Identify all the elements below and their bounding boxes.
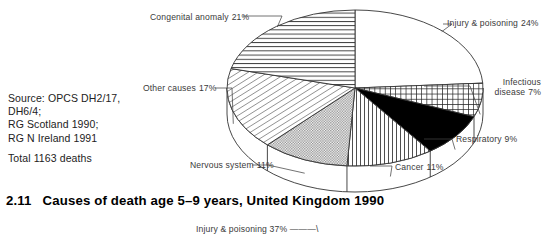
slice-label-injury-poisoning: Injury & poisoning24% <box>447 18 539 28</box>
figure-caption-text: Causes of death age 5–9 years, United Ki… <box>43 193 385 208</box>
source-note: Source: OPCS DH2/17, DH6/4; RG Scotland … <box>8 92 173 145</box>
slice-label-injury-poisoning-name: Injury & poisoning <box>447 18 518 28</box>
next-figure-teaser-label: Injury & poisoning 37% ———\ <box>196 224 319 234</box>
next-figure-teaser-value: 37% <box>270 224 288 234</box>
next-figure-teaser-leader: ———\ <box>290 224 319 234</box>
figure-number: 2.11 <box>6 193 32 208</box>
slice-label-nervous-system-name: Nervous system <box>190 160 254 170</box>
slice-label-respiratory-value: 9% <box>505 134 518 144</box>
slice-label-infectious-disease-line2: disease <box>495 87 526 97</box>
slice-label-nervous-system: Nervous system11% <box>190 160 274 170</box>
source-line-2: DH6/4; <box>8 105 173 118</box>
figure-caption: 2.11Causes of death age 5–9 years, Unite… <box>6 193 384 208</box>
slice-label-congenital-anomaly-name: Congenital anomaly <box>150 12 229 22</box>
slice-label-nervous-system-value: 11% <box>257 160 274 170</box>
next-figure-teaser-name: Injury & poisoning <box>196 224 267 234</box>
slice-label-cancer-name: Cancer <box>395 162 424 172</box>
slice-label-infectious-disease-value: 7% <box>528 87 541 97</box>
slice-label-infectious-disease: Infectious disease7% <box>432 77 541 98</box>
source-line-3: RG Scotland 1990; <box>8 118 173 131</box>
slice-label-other-causes-value: 17% <box>199 83 217 93</box>
slice-label-cancer-value: 11% <box>427 162 444 172</box>
source-line-4: RG N Ireland 1991 <box>8 132 173 145</box>
slice-label-respiratory: Respiratory9% <box>456 134 517 144</box>
source-line-1: Source: OPCS DH2/17, <box>8 92 173 105</box>
total-deaths-note: Total 1163 deaths <box>8 152 173 165</box>
slice-label-respiratory-name: Respiratory <box>456 134 502 144</box>
figure-panel: Source: OPCS DH2/17, DH6/4; RG Scotland … <box>0 0 547 242</box>
slice-label-infectious-disease-line1: Infectious <box>432 77 541 87</box>
slice-label-injury-poisoning-value: 24% <box>521 18 539 28</box>
slice-label-other-causes-name: Other causes <box>143 83 196 93</box>
slice-label-other-causes: Other causes17% <box>143 83 217 93</box>
slice-label-congenital-anomaly-value: 21% <box>232 12 250 22</box>
slice-label-congenital-anomaly: Congenital anomaly21% <box>150 12 249 22</box>
slice-label-cancer: Cancer11% <box>395 162 444 172</box>
